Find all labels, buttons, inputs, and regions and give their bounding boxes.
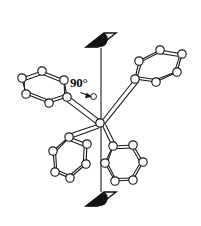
ring-atom [152,78,160,86]
ring-atom-ipso [65,133,73,141]
phenyl-ring-upper-right [135,50,182,82]
ring-atom [45,99,53,107]
phenyl-ring-upper-left [22,71,67,103]
ring-atom [139,158,147,166]
ring-atom [129,141,137,149]
ring-atom [60,76,68,84]
phenyl-ring-lower-right [105,145,143,181]
ring-atom [22,90,30,98]
ring-atom [101,159,109,167]
ring-atom [49,147,57,155]
ring-atom [83,140,91,148]
ring-atom [129,176,137,184]
angle-pointer-arrow [81,93,92,99]
molecule-canvas [0,0,201,226]
ring-atom-ipso [131,75,139,83]
figure-root: 90° [0,0,201,226]
ring-atom [178,50,186,58]
central-atom [96,119,104,127]
ring-atom [135,57,143,65]
ring-atom [38,67,46,75]
ring-atom [51,168,59,176]
ring-atom [82,160,90,168]
bond-center-to-upper-right [102,77,139,124]
angle-label: 90° [70,76,88,89]
two-fold-axis-lens-symbol-bottom [86,192,116,206]
bond-center-to-lower-right [103,124,115,144]
ring-atom [18,74,26,82]
atoms-lower-left-ring [49,133,91,182]
ring-atom [173,68,181,76]
atoms-upper-right-ring [131,46,186,86]
ring-atom-ipso [109,142,117,150]
ring-atom [156,46,164,54]
ring-atom [66,174,74,182]
ring-atom [111,177,119,185]
two-fold-axis-lens-symbol-top [86,33,116,47]
ring-atom-ipso [63,93,71,101]
